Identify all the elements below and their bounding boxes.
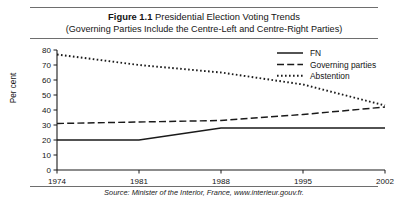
y-tick-label: 60 bbox=[42, 76, 51, 85]
divider-under-title bbox=[30, 38, 378, 39]
divider-bottom bbox=[30, 186, 378, 187]
figure-number: Figure 1.1 bbox=[108, 11, 152, 22]
divider-top bbox=[30, 7, 378, 8]
x-tick-label: 1988 bbox=[212, 177, 230, 184]
x-tick-label: 1995 bbox=[294, 177, 312, 184]
y-tick-label: 50 bbox=[42, 91, 51, 100]
x-tick-label: 2002 bbox=[376, 177, 394, 184]
figure-title-text: Presidential Election Voting Trends bbox=[152, 11, 299, 22]
plot-area: 01020304050607080 19741981198819952002 F… bbox=[0, 44, 408, 184]
y-axis-ticks: 01020304050607080 bbox=[42, 46, 57, 175]
chart-legend: FNGoverning partiesAbstention bbox=[277, 48, 376, 81]
y-tick-label: 30 bbox=[42, 121, 51, 130]
series-line-fn bbox=[57, 128, 385, 140]
series-line-governing-parties bbox=[57, 107, 385, 124]
legend-label-governing-parties: Governing parties bbox=[310, 60, 376, 70]
y-tick-label: 20 bbox=[42, 136, 51, 145]
y-tick-label: 0 bbox=[47, 166, 52, 175]
y-tick-label: 80 bbox=[42, 46, 51, 55]
y-tick-label: 10 bbox=[42, 151, 51, 160]
figure-subtitle: (Governing Parties Include the Centre-Le… bbox=[30, 23, 378, 36]
figure-container: Figure 1.1 Presidential Election Voting … bbox=[0, 0, 408, 204]
page-title: Figure 1.1 Presidential Election Voting … bbox=[30, 11, 378, 23]
legend-label-fn: FN bbox=[310, 48, 321, 58]
x-tick-label: 1981 bbox=[130, 177, 148, 184]
x-tick-label: 1974 bbox=[48, 177, 66, 184]
y-tick-label: 70 bbox=[42, 61, 51, 70]
line-chart: 01020304050607080 19741981198819952002 F… bbox=[0, 44, 408, 184]
x-axis-ticks: 19741981198819952002 bbox=[48, 170, 394, 184]
y-tick-label: 40 bbox=[42, 106, 51, 115]
figure-title-block: Figure 1.1 Presidential Election Voting … bbox=[30, 11, 378, 36]
legend-label-abstention: Abstention bbox=[310, 71, 350, 81]
source-note: Source: Minister of the Interior, France… bbox=[0, 188, 408, 197]
